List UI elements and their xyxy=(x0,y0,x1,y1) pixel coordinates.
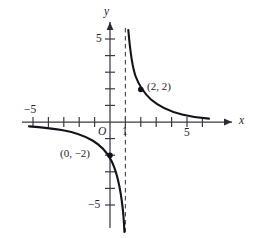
origin-label: O xyxy=(98,126,106,138)
x-tick-label-5: 5 xyxy=(184,127,190,139)
x-tick-label-1: 1 xyxy=(122,126,128,138)
curve-right-branch xyxy=(128,30,209,119)
point-marker-0-neg2 xyxy=(107,152,113,158)
y-axis xyxy=(107,22,114,228)
x-tick-label-neg5: −5 xyxy=(24,104,36,116)
annotation-point-0-neg2: (0, −2) xyxy=(60,148,90,159)
y-tick-label-5: 5 xyxy=(96,33,102,45)
x-axis-label: x xyxy=(239,115,244,127)
y-axis-label: y xyxy=(104,6,109,18)
y-tick-label-neg5: −5 xyxy=(88,199,100,211)
plot-canvas xyxy=(0,0,266,238)
annotation-point-2-2: (2, 2) xyxy=(147,81,171,92)
math-figure: x y O −5 1 5 5 −5 (2, 2) (0, −2) xyxy=(0,0,266,238)
point-marker-2-2 xyxy=(138,87,144,93)
